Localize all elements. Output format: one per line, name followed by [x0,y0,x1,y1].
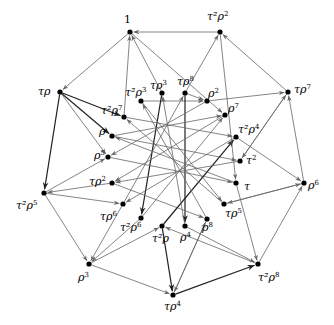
node-label-t: τ [244,181,250,192]
node-label-base: τ²ρ [125,86,142,99]
node-label-base: 1 [124,13,131,26]
node-label-base: τ²ρ [120,221,137,234]
node-label-r5: ρ5 [94,150,105,161]
node-label-exponent: 4 [186,231,190,239]
node-r6 [301,180,306,185]
node-label-r: ρ [99,126,105,137]
edge-t-to-r [115,137,233,182]
node-label-exponent: 7 [234,102,238,110]
node-label-base: τρ [164,300,177,313]
node-tr8 [182,90,187,95]
node-t2r3 [138,98,143,103]
edge-t2r8-to-r6 [259,186,302,262]
node-label-exponent: 5 [238,207,242,215]
node-tr5 [221,201,226,206]
node-label-base: τρ [100,210,113,223]
node-label-base: τρ [177,75,190,88]
node-label-tr2: τρ2 [89,176,106,187]
edge-r-to-t2 [115,136,237,160]
node-label-r2: ρ2 [208,88,219,99]
node-label-exponent: 3 [84,271,88,279]
node-label-t2r6: τ²ρ6 [120,222,141,233]
node-label-tr3: τρ3 [150,80,167,91]
node-r4 [182,223,187,228]
node-tr [57,89,62,94]
node-label-exponent: 4 [255,123,259,131]
node-label-t2r3: τ²ρ3 [125,87,146,98]
node-label-exponent: 4 [177,300,181,308]
node-label-1: 1 [124,14,131,25]
edge-t-to-t2r8 [237,186,257,261]
node-t2r5 [41,190,46,195]
node-label-exponent: 6 [113,210,117,218]
node-label-exponent: 7 [307,83,311,91]
node-label-base: τ²ρ [258,271,275,284]
node-label-base: τ [244,180,250,193]
node-label-base: τρ [38,85,51,98]
edge-r2-to-tr7 [210,92,285,100]
node-label-r8: ρ8 [202,222,213,233]
node-label-t2r8: τ²ρ8 [258,272,279,283]
node-label-t2: τ2 [246,155,257,166]
node-label-tr8: τρ8 [177,76,194,87]
node-label-exponent: 2 [224,10,228,18]
cayley-graph [0,0,334,325]
edge-tr7-to-t2r2 [223,34,286,90]
node-label-base: τ²ρ [101,104,118,117]
node-r7 [222,112,227,117]
node-label-r4: ρ4 [180,232,191,243]
node-label-base: τ²ρ [152,232,169,245]
node-label-base: τ²ρ [238,123,255,136]
node-label-exponent: 6 [314,179,318,187]
node-label-r3: ρ3 [78,272,89,283]
node-label-base: τ²ρ [207,10,224,23]
node-label-exponent: 3 [142,86,146,94]
node-t2r2 [217,29,222,34]
node-r3 [86,261,91,266]
node-label-t2r5: τ²ρ5 [16,200,37,211]
node-label-exponent: 8 [208,221,212,229]
node-label-base: τρ [89,175,102,188]
node-label-r7: ρ7 [228,103,239,114]
node-tr7 [285,89,290,94]
edge-r4-to-t2r8 [187,227,255,262]
node-label-exponent: 8 [275,271,279,279]
node-label-exponent: 2 [252,154,256,162]
edge-t2r5-to-tr6 [47,193,120,203]
node-label-t2r4: τ²ρ4 [238,124,259,135]
node-label-base: τ²ρ [16,199,33,212]
node-label-exponent: 5 [100,149,104,157]
node-r [109,133,114,138]
node-label-tr: τρ [38,86,51,97]
node-tr4 [170,292,175,297]
node-1 [127,29,132,34]
node-r5 [105,154,110,159]
edge-tr8-to-r2 [187,94,203,100]
node-label-exponent: 6 [137,221,141,229]
node-label-tr4: τρ4 [164,301,181,312]
node-label-exponent: 2 [102,175,106,183]
node-t2r8 [255,261,260,266]
node-label-t2r7: τ²ρ7 [101,105,122,116]
node-label-base: τρ [294,83,307,96]
node-t2r [159,223,164,228]
edge-r5-to-t [111,158,233,183]
node-label-tr7: τρ7 [294,84,311,95]
node-label-exponent: 3 [163,79,167,87]
edge-r3-to-tr4 [91,265,169,294]
node-label-exponent: 8 [190,75,194,83]
edge-1-to-tr [63,34,128,90]
node-label-r6: ρ6 [308,180,319,191]
node-label-exponent: 7 [118,104,122,112]
edge-r6-to-tr7 [289,96,304,181]
edge-t2r5-to-r3 [45,195,87,261]
node-label-base: τρ [225,207,238,220]
edge-tr4-to-t2r8 [175,265,254,294]
node-label-exponent: 2 [214,87,218,95]
node-label-t2r2: τ²ρ2 [207,11,228,22]
node-tr2 [109,180,114,185]
edge-t2r7-to-1 [124,36,130,115]
node-t2 [237,158,242,163]
node-label-tr5: τρ5 [225,208,242,219]
node-label-t2r: τ²ρ [152,233,169,244]
